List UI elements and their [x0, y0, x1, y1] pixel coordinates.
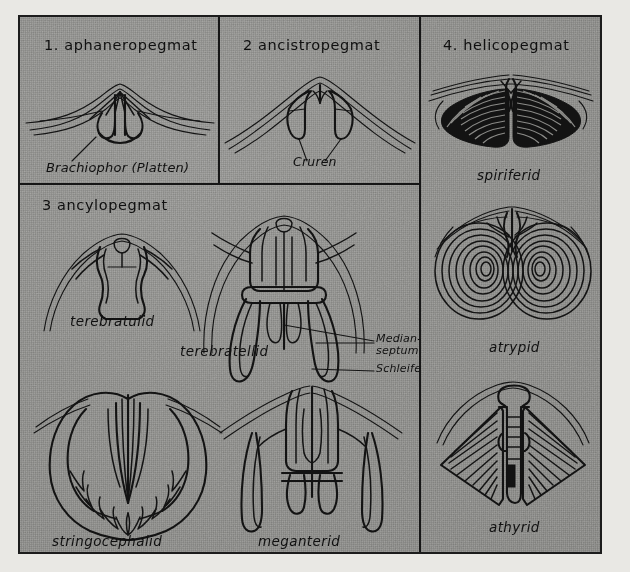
panel-title-ancylopegmat: 3 ancylopegmat: [42, 197, 168, 213]
annotation-schleife: Schleife: [376, 363, 421, 375]
caption-terebratellid: terebratellid: [180, 343, 268, 359]
panel-ancistropegmat: 2 ancistropegmat Cruren: [221, 17, 419, 184]
caption-atrypid: atrypid: [489, 339, 540, 355]
diagram-meganterid: [216, 377, 416, 542]
panel-title-aphaneropegmat: 1. aphaneropegmat: [44, 37, 197, 53]
panel-title-ancistropegmat: 2 ancistropegmat: [243, 37, 380, 53]
diagram-stringocephalid: [28, 383, 238, 548]
caption-stringocephalid: stringocephalid: [52, 533, 162, 549]
caption-spiriferid: spiriferid: [477, 167, 541, 183]
annotation-median-septum: Median- septum: [376, 333, 421, 358]
annotation-brachiophor: Brachiophor (Platten): [46, 161, 189, 176]
panel-helicopegmat: 4. helicopegmat: [421, 17, 602, 554]
caption-meganterid: meganterid: [258, 533, 340, 549]
caption-athyrid: athyrid: [489, 519, 540, 535]
panel-title-helicopegmat: 4. helicopegmat: [443, 37, 569, 53]
diagram-spiriferid: [421, 61, 602, 171]
diagram-athyrid: [421, 373, 602, 523]
annotation-cruren: Cruren: [293, 155, 337, 169]
diagram-terebratellid: [188, 203, 408, 393]
panel-ancylopegmat: 3 ancylopegmat terebratulid: [20, 185, 419, 554]
figure-plate: 1. aphaneropegmat Brach: [18, 15, 602, 554]
panel-aphaneropegmat: 1. aphaneropegmat Brach: [20, 17, 219, 184]
diagram-atrypid: [421, 199, 602, 339]
caption-terebratulid: terebratulid: [70, 313, 155, 329]
